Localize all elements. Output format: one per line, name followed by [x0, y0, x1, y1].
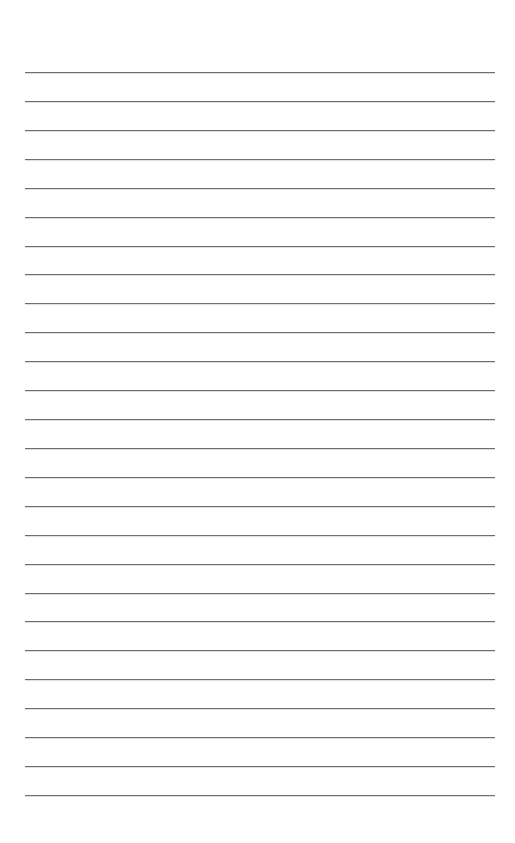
ruled-line	[25, 274, 495, 275]
ruled-line	[25, 130, 495, 131]
ruled-line	[25, 795, 495, 796]
ruled-line	[25, 246, 495, 247]
ruled-line	[25, 621, 495, 622]
ruled-line	[25, 72, 495, 73]
ruled-line	[25, 766, 495, 767]
ruled-line	[25, 650, 495, 651]
ruled-line	[25, 217, 495, 218]
ruled-line	[25, 188, 495, 189]
ruled-line	[25, 332, 495, 333]
ruled-line	[25, 361, 495, 362]
ruled-line	[25, 593, 495, 594]
ruled-line	[25, 303, 495, 304]
ruled-line	[25, 390, 495, 391]
ruled-line	[25, 101, 495, 102]
ruled-line	[25, 679, 495, 680]
ruled-line	[25, 708, 495, 709]
ruled-line	[25, 506, 495, 507]
ruled-line	[25, 159, 495, 160]
ruled-line	[25, 448, 495, 449]
lined-paper-page	[0, 0, 515, 843]
ruled-line	[25, 419, 495, 420]
ruled-line	[25, 535, 495, 536]
ruled-line	[25, 564, 495, 565]
ruled-line	[25, 737, 495, 738]
ruled-line	[25, 477, 495, 478]
